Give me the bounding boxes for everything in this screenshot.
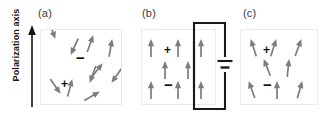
panel-label-c: (c) [243, 7, 256, 19]
polarization-axis-arrow [27, 25, 37, 107]
dipole-arrow-icon [246, 80, 258, 99]
dipole-arrow-icon [84, 34, 96, 53]
dipole-arrow-icon [294, 80, 305, 99]
negative-charge-sign: − [164, 77, 173, 92]
positive-charge-sign: + [61, 78, 68, 90]
polarization-axis-label: Polarization axis [11, 0, 21, 93]
positive-charge-sign: + [263, 44, 270, 56]
dipole-arrow-icon [261, 58, 273, 77]
dipole-arrow-icon [109, 66, 121, 84]
dipole-arrow-icon [83, 89, 102, 103]
dipole-arrow-icon [148, 81, 154, 99]
dipole-arrow-icon [175, 81, 181, 99]
negative-charge-sign: − [263, 77, 272, 92]
dipole-arrow-icon [175, 39, 181, 57]
dipole-arrow-icon [284, 59, 292, 78]
dipole-arrow-icon [185, 61, 191, 79]
dipole-arrow-icon [46, 30, 58, 40]
dipole-arrow-icon [292, 38, 304, 57]
dipole-arrow-icon [148, 39, 154, 57]
panel-c-remanent-polarization: +− [240, 29, 318, 105]
dipole-arrow-icon [248, 38, 259, 57]
positive-charge-sign: + [164, 44, 171, 56]
dipole-arrow-icon [106, 38, 115, 57]
panel-a-arrows [41, 30, 121, 104]
dipole-arrow-icon [274, 81, 280, 99]
panel-label-b: (b) [142, 7, 156, 19]
negative-charge-sign: − [76, 50, 85, 65]
panel-a-random-dipoles: +− [40, 29, 122, 105]
polarization-figure: Polarization axis (a) (b) (c) +− +− +− [0, 0, 324, 118]
panel-c-arrows [241, 30, 317, 104]
panel-label-a: (a) [38, 7, 52, 19]
voltage-source-circuit [192, 20, 234, 112]
